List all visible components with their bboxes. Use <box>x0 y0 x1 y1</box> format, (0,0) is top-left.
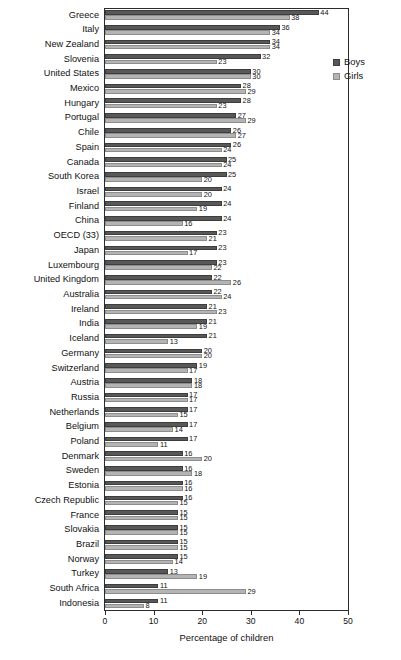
bar-value-label: 19 <box>199 323 207 330</box>
bar-boys <box>105 510 178 515</box>
x-axis-title: Percentage of children <box>104 632 349 643</box>
bar-value-label: 24 <box>223 161 231 168</box>
bar-boys <box>105 157 227 162</box>
bar-value-label: 32 <box>262 53 270 60</box>
bar-value-label: 26 <box>233 279 241 286</box>
bar-value-label: 24 <box>223 215 231 222</box>
bar-value-label: 30 <box>252 73 260 80</box>
chart-row: Russia1717 <box>0 390 401 405</box>
bar-value-label: 34 <box>272 43 280 50</box>
bar-boys <box>105 113 236 118</box>
category-label: Indonesia <box>0 599 99 608</box>
category-label: Australia <box>0 290 99 299</box>
chart-row: Turkey1319 <box>0 567 401 582</box>
bar-girls <box>105 413 178 418</box>
category-label: Japan <box>0 246 99 255</box>
x-tick <box>202 611 203 615</box>
category-label: Slovakia <box>0 525 99 534</box>
bar-boys <box>105 143 231 148</box>
chart-row: Czech Republic1615 <box>0 493 401 508</box>
x-tick <box>105 611 106 615</box>
category-label: Finland <box>0 202 99 211</box>
bar-value-label: 18 <box>194 382 202 389</box>
x-tick-label: 20 <box>197 617 207 626</box>
chart-legend: Boys Girls <box>333 56 393 84</box>
x-tick-label: 30 <box>246 617 256 626</box>
category-label: Switzerland <box>0 364 99 373</box>
category-label: Turkey <box>0 569 99 578</box>
category-label: Norway <box>0 555 99 564</box>
bar-value-label: 20 <box>204 191 212 198</box>
chart-row: Iceland2113 <box>0 332 401 347</box>
bar-girls <box>105 516 178 521</box>
chart-row: Norway1514 <box>0 552 401 567</box>
bar-value-label: 17 <box>189 435 197 442</box>
x-tick <box>348 611 349 615</box>
bar-girls <box>105 457 202 462</box>
bar-value-label: 11 <box>160 597 168 604</box>
category-label: United Kingdom <box>0 275 99 284</box>
category-label: Estonia <box>0 481 99 490</box>
category-label: Canada <box>0 158 99 167</box>
category-label: South Africa <box>0 584 99 593</box>
chart-row: Brazil1515 <box>0 537 401 552</box>
bar-girls <box>105 354 202 359</box>
category-label: Ireland <box>0 305 99 314</box>
girls-swatch-icon <box>333 73 340 80</box>
bar-girls <box>105 192 202 197</box>
bar-chart: Greece4438Italy3634New Zealand3434Sloven… <box>0 0 401 660</box>
bar-value-label: 23 <box>218 58 226 65</box>
bar-value-label: 22 <box>213 264 221 271</box>
bar-boys <box>105 334 207 339</box>
chart-row: Germany2020 <box>0 346 401 361</box>
chart-row: Belgium1714 <box>0 420 401 435</box>
bar-boys <box>105 540 178 545</box>
bar-girls <box>105 486 183 491</box>
category-label: Sweden <box>0 466 99 475</box>
bar-girls <box>105 604 144 609</box>
bar-value-label: 44 <box>320 9 328 16</box>
bar-girls <box>105 104 217 109</box>
bar-girls <box>105 163 222 168</box>
bar-girls <box>105 530 178 535</box>
bar-value-label: 17 <box>189 367 197 374</box>
chart-row: Hungary2823 <box>0 96 401 111</box>
bar-value-label: 28 <box>243 97 251 104</box>
category-label: China <box>0 216 99 225</box>
bar-girls <box>105 339 168 344</box>
legend-item-boys: Boys <box>333 56 393 68</box>
bar-boys <box>105 246 217 251</box>
chart-row: Israel2420 <box>0 184 401 199</box>
bar-girls <box>105 501 178 506</box>
category-label: Iceland <box>0 334 99 343</box>
category-label: Portugal <box>0 113 99 122</box>
bar-boys <box>105 84 241 89</box>
category-label: United States <box>0 69 99 78</box>
bar-value-label: 23 <box>218 308 226 315</box>
bar-boys <box>105 54 261 59</box>
chart-row: Luxembourg2322 <box>0 258 401 273</box>
bar-boys <box>105 525 178 530</box>
bar-boys <box>105 349 202 354</box>
bar-value-label: 20 <box>204 176 212 183</box>
bar-boys <box>105 466 183 471</box>
bar-girls <box>105 574 197 579</box>
category-label: Czech Republic <box>0 496 99 505</box>
bar-girls <box>105 45 270 50</box>
x-tick <box>251 611 252 615</box>
bar-boys <box>105 437 188 442</box>
bar-girls <box>105 383 192 388</box>
bar-value-label: 17 <box>189 249 197 256</box>
bar-value-label: 25 <box>228 171 236 178</box>
bar-boys <box>105 216 222 221</box>
category-label: France <box>0 511 99 520</box>
category-label: Brazil <box>0 540 99 549</box>
category-label: Hungary <box>0 99 99 108</box>
bar-boys <box>105 569 168 574</box>
bar-boys <box>105 40 270 45</box>
category-label: Slovenia <box>0 55 99 64</box>
bar-boys <box>105 231 217 236</box>
bar-value-label: 17 <box>189 421 197 428</box>
bar-value-label: 19 <box>199 573 207 580</box>
bar-boys <box>105 554 178 559</box>
